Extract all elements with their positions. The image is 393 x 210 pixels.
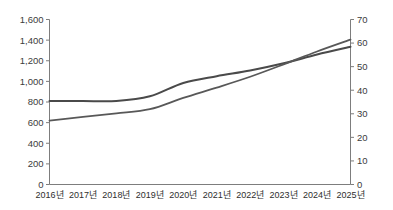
right-tick-label: 0 — [357, 179, 362, 190]
chart-canvas: 02004006008001,0001,2001,4001,600 010203… — [0, 0, 393, 210]
right-tick-label: 20 — [357, 132, 368, 143]
left-tick-label: 1,400 — [20, 35, 44, 46]
x-tick-label: 2020년 — [169, 190, 197, 200]
left-axis-ticks: 02004006008001,0001,2001,4001,600 — [20, 14, 50, 190]
x-tick-label: 2021년 — [203, 190, 231, 200]
x-tick-label: 2023년 — [270, 190, 298, 200]
left-tick-label: 1,200 — [20, 55, 44, 66]
x-tick-label: 2018년 — [102, 190, 130, 200]
series-group — [50, 40, 351, 121]
right-tick-label: 60 — [357, 37, 368, 48]
x-tick-label: 2024년 — [303, 190, 331, 200]
right-tick-label: 50 — [357, 61, 368, 72]
right-axis-ticks: 010203040506070 — [351, 14, 368, 190]
x-tick-label: 2025년 — [336, 190, 364, 200]
left-tick-label: 200 — [28, 158, 44, 169]
left-tick-label: 600 — [28, 117, 44, 128]
left-tick-label: 1,000 — [20, 76, 44, 87]
x-tick-label: 2016년 — [35, 190, 63, 200]
x-tick-label: 2022년 — [236, 190, 264, 200]
right-tick-label: 70 — [357, 14, 368, 25]
right-tick-label: 40 — [357, 85, 368, 96]
left-tick-label: 1,600 — [20, 14, 44, 25]
right-tick-label: 30 — [357, 108, 368, 119]
x-tick-label: 2019년 — [136, 190, 164, 200]
line-chart: 02004006008001,0001,2001,4001,600 010203… — [0, 0, 393, 210]
left-tick-label: 400 — [28, 138, 44, 149]
x-tick-label: 2017년 — [69, 190, 97, 200]
right-tick-label: 10 — [357, 155, 368, 166]
x-axis-labels: 2016년2017년2018년2019년2020년2021년2022년2023년… — [35, 190, 364, 200]
left-tick-label: 0 — [38, 179, 43, 190]
left-tick-label: 800 — [28, 96, 44, 107]
